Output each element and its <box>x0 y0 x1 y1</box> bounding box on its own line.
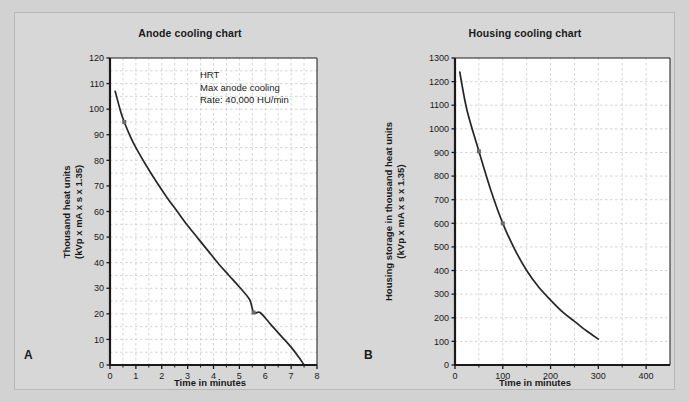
panel-letter-b: B <box>364 348 373 362</box>
plot-area-housing: 0100200300400500600700800900100011001200… <box>355 13 676 391</box>
svg-text:Max anode cooling: Max anode cooling <box>200 82 280 93</box>
plot-area-anode: 0102030405060708090100110120012345678HRT… <box>15 13 355 391</box>
panel-housing-cooling: Housing cooling chart Housing storage in… <box>355 13 676 391</box>
svg-text:800: 800 <box>434 171 449 181</box>
panel-letter-a: A <box>24 348 33 362</box>
svg-text:40: 40 <box>94 258 104 268</box>
svg-text:1000: 1000 <box>429 124 449 134</box>
svg-text:400: 400 <box>434 266 449 276</box>
svg-text:Rate: 40,000 HU/min: Rate: 40,000 HU/min <box>200 94 289 105</box>
svg-text:100: 100 <box>434 337 449 347</box>
svg-text:10: 10 <box>94 335 104 345</box>
x-axis-label-anode: Time in minutes <box>95 377 325 388</box>
svg-text:300: 300 <box>434 289 449 299</box>
svg-text:0: 0 <box>444 360 449 370</box>
svg-text:110: 110 <box>90 79 104 89</box>
svg-text:120: 120 <box>89 53 104 63</box>
svg-text:70: 70 <box>94 181 104 191</box>
svg-text:90: 90 <box>94 130 104 140</box>
svg-text:50: 50 <box>94 232 104 242</box>
figure-root: Anode cooling chart Thousand heat units … <box>0 0 689 402</box>
svg-text:60: 60 <box>94 207 104 217</box>
panel-anode-cooling: Anode cooling chart Thousand heat units … <box>15 13 355 391</box>
svg-text:0: 0 <box>99 360 104 370</box>
svg-text:1100: 1100 <box>430 100 449 110</box>
svg-text:20: 20 <box>94 309 104 319</box>
svg-text:900: 900 <box>434 148 449 158</box>
svg-text:600: 600 <box>434 219 449 229</box>
svg-text:1200: 1200 <box>429 77 449 87</box>
figure-card: Anode cooling chart Thousand heat units … <box>14 12 675 390</box>
svg-text:30: 30 <box>94 283 104 293</box>
svg-text:200: 200 <box>434 313 449 323</box>
svg-text:80: 80 <box>94 156 104 166</box>
x-axis-label-housing: Time in minutes <box>415 377 655 388</box>
svg-text:500: 500 <box>434 242 449 252</box>
svg-text:HRT: HRT <box>200 69 220 80</box>
svg-text:100: 100 <box>89 104 104 114</box>
svg-text:1300: 1300 <box>429 53 449 63</box>
svg-text:700: 700 <box>434 195 449 205</box>
